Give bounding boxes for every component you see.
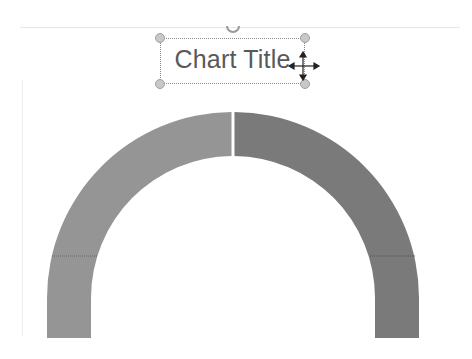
chart-title[interactable]: Chart Title (161, 45, 304, 74)
resize-handle-top-right[interactable] (300, 33, 310, 43)
resize-handle-bottom-left[interactable] (155, 79, 165, 89)
resize-handle-top-left[interactable] (155, 33, 165, 43)
segment-1-arc[interactable] (47, 112, 232, 338)
resize-handle-bottom-right[interactable] (300, 79, 310, 89)
rotation-handle-icon[interactable] (226, 22, 240, 36)
chart-area[interactable]: Chart Title (0, 0, 472, 359)
segment-2-arc[interactable] (235, 112, 420, 338)
chart-title-box[interactable]: Chart Title (160, 38, 305, 84)
